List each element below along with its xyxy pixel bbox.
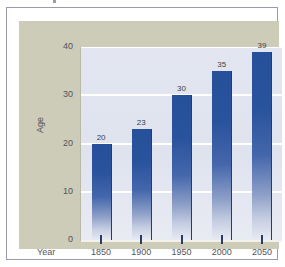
cropped-heading-artifact bbox=[0, 0, 285, 6]
y-axis-title: Age bbox=[35, 117, 45, 133]
bar bbox=[92, 144, 112, 241]
x-axis-tick-label: 1950 bbox=[162, 247, 202, 257]
bar-value-label: 30 bbox=[167, 84, 197, 93]
y-axis-tick-label: 20 bbox=[39, 138, 73, 148]
y-axis-tick-label: 40 bbox=[39, 41, 73, 51]
x-axis-tick-label: 2050 bbox=[242, 247, 282, 257]
y-axis-tick-label: 10 bbox=[39, 186, 73, 196]
x-axis-tick-mark bbox=[100, 235, 102, 244]
y-axis-tick-label: 0 bbox=[39, 234, 73, 244]
bar-value-label: 20 bbox=[86, 133, 116, 142]
bar-value-label: 39 bbox=[247, 41, 277, 50]
y-axis-line bbox=[80, 47, 81, 241]
x-axis-tick-mark bbox=[221, 235, 223, 244]
glyph-fragment bbox=[53, 0, 56, 3]
bar bbox=[172, 95, 192, 240]
figure-panel: 010203040 18501900195020002050 202330353… bbox=[19, 21, 279, 249]
chart-figure: 010203040 18501900195020002050 202330353… bbox=[0, 0, 285, 267]
x-axis-title: Year bbox=[37, 247, 55, 257]
x-axis-tick-label: 1900 bbox=[121, 247, 161, 257]
figure-outer-border: 010203040 18501900195020002050 202330353… bbox=[6, 7, 278, 260]
bar-value-label: 23 bbox=[126, 118, 156, 127]
bar bbox=[212, 71, 232, 240]
x-axis-tick-mark bbox=[140, 235, 142, 244]
bar bbox=[132, 129, 152, 240]
x-axis-tick-label: 1850 bbox=[81, 247, 121, 257]
x-axis-tick-mark bbox=[181, 235, 183, 244]
bar-value-label: 35 bbox=[207, 60, 237, 69]
y-axis-tick-label: 30 bbox=[39, 89, 73, 99]
plot-area bbox=[81, 47, 282, 240]
x-axis-tick-mark bbox=[261, 235, 263, 244]
x-axis-tick-label: 2000 bbox=[202, 247, 242, 257]
plot-frame bbox=[81, 47, 282, 240]
bar bbox=[252, 52, 272, 240]
